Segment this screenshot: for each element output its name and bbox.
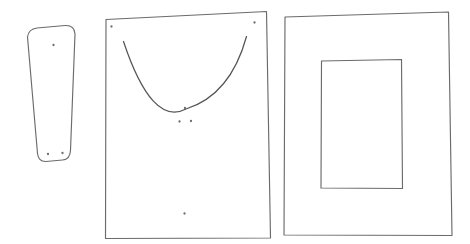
dot-top-left-corner — [110, 25, 112, 27]
dot-bottom-left — [47, 153, 49, 155]
dot-below-curve-left — [178, 120, 180, 122]
dot-top-center — [52, 44, 54, 46]
back-panel-outline — [284, 12, 452, 236]
dot-below-curve-right — [190, 120, 192, 122]
dot-top-right-corner — [253, 21, 255, 23]
drawing-canvas — [0, 0, 470, 244]
shape-tapered-piece[interactable] — [28, 25, 76, 161]
dot-lower-center — [183, 212, 185, 214]
dot-bottom-right — [61, 152, 63, 154]
tapered-piece-outline — [28, 25, 76, 161]
front-panel-outline — [106, 12, 271, 239]
dot-curve-center — [184, 107, 186, 109]
shape-back-panel[interactable] — [284, 12, 452, 236]
shape-front-panel[interactable] — [106, 12, 271, 239]
line-drawing-svg — [0, 0, 470, 244]
